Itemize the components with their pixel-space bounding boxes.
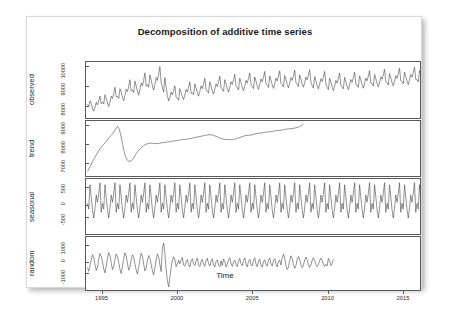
panel-trend: [85, 120, 421, 177]
screenshot-root: Decomposition of additive time series ob…: [0, 0, 456, 320]
plot-card: Decomposition of additive time series ob…: [26, 16, 422, 288]
series-observed: [86, 62, 420, 118]
ytick-mark: [86, 144, 89, 145]
ytick-mark: [86, 217, 89, 218]
ytick-mark: [86, 245, 89, 246]
axis-label-random: random: [27, 236, 41, 291]
yticks-trend: 9000 8000 7000: [41, 120, 67, 177]
ytick-trend-2: 7000: [61, 160, 67, 172]
ytick-seasonal-0: 500: [61, 184, 67, 193]
series-seasonal: [86, 179, 420, 234]
xtick-label: 2015: [396, 295, 409, 301]
ytick-seasonal-1: 0: [61, 202, 67, 205]
series-random: [86, 237, 420, 290]
ytick-observed-0: 10000: [61, 63, 67, 79]
ytick-mark: [86, 86, 89, 87]
ytick-mark: [86, 262, 89, 263]
ytick-observed-1: 9000: [61, 83, 67, 95]
xtick-label: 2010: [321, 295, 334, 301]
xtick-label: 2000: [170, 295, 183, 301]
xtick-mark: [177, 291, 178, 294]
axis-label-trend: trend: [27, 120, 41, 177]
xtick-label: 2005: [246, 295, 259, 301]
xtick-mark: [403, 291, 404, 294]
ytick-mark: [86, 66, 89, 67]
ytick-trend-0: 9000: [61, 122, 67, 134]
xtick-mark: [102, 291, 103, 294]
panel-random: [85, 236, 421, 291]
yticks-seasonal: 500 0 -500: [41, 178, 67, 235]
ytick-observed-2: 8000: [61, 103, 67, 115]
yticks-random: 1000 0 -1000: [41, 236, 67, 291]
ytick-trend-1: 8000: [61, 141, 67, 153]
axis-label-seasonal: seasonal: [27, 178, 41, 235]
ytick-random-0: 1000: [61, 242, 67, 254]
x-axis: 19952000200520102015: [85, 291, 421, 292]
xtick-label: 1995: [95, 295, 108, 301]
series-trend: [86, 121, 420, 176]
panel-observed: [85, 61, 421, 119]
ytick-seasonal-2: -500: [61, 214, 67, 225]
ytick-mark: [86, 205, 89, 206]
ytick-mark: [86, 125, 89, 126]
ytick-mark: [86, 163, 89, 164]
x-axis-title: Time: [27, 271, 423, 280]
xtick-mark: [252, 291, 253, 294]
ytick-mark: [86, 187, 89, 188]
xtick-mark: [328, 291, 329, 294]
page-title: Decomposition of additive time series: [27, 26, 423, 37]
panel-seasonal: [85, 178, 421, 235]
yticks-observed: 10000 9000 8000: [41, 61, 67, 119]
ytick-random-1: 0: [61, 259, 67, 262]
ytick-mark: [86, 106, 89, 107]
axis-label-observed: observed: [27, 61, 41, 119]
